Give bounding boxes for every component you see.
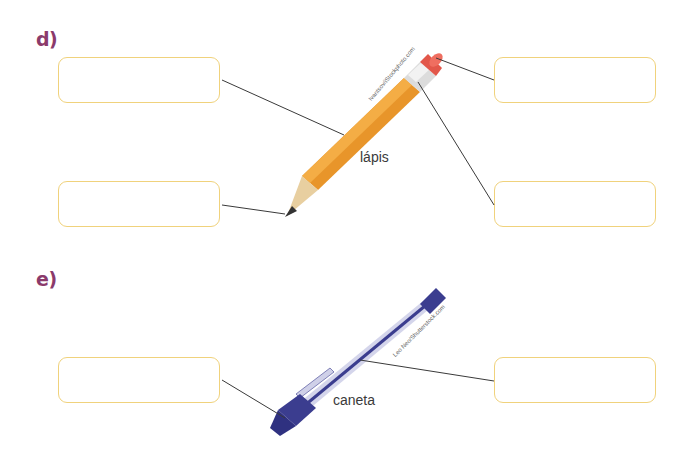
pencil-illustration: [285, 51, 445, 217]
pen-illustration: [270, 288, 446, 436]
connector-lines-e: [222, 360, 494, 418]
pencil-caption: lápis: [360, 149, 389, 165]
illustrations-layer: [0, 0, 688, 456]
pen-caption: caneta: [333, 392, 375, 408]
